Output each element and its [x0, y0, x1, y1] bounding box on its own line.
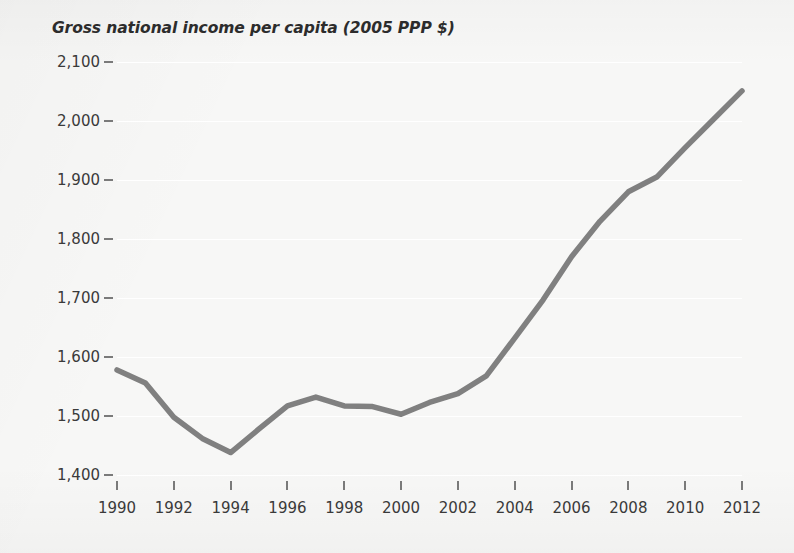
x-axis-label-2008: 2008 — [609, 499, 647, 517]
x-axis-tick-2000 — [400, 481, 402, 490]
y-axis-tick-2000 — [104, 120, 113, 122]
x-axis-label-1992: 1992 — [155, 499, 193, 517]
plot-area — [117, 62, 742, 475]
y-axis-tick-1900 — [104, 179, 113, 181]
y-axis-tick-1800 — [104, 238, 113, 240]
x-axis-label-1998: 1998 — [325, 499, 363, 517]
x-axis-label-2006: 2006 — [552, 499, 590, 517]
y-axis-label-1800: 1,800 — [57, 230, 100, 248]
y-axis-label-1500: 1,500 — [57, 407, 100, 425]
x-axis-tick-1994 — [230, 481, 232, 490]
data-line-path — [117, 91, 742, 453]
x-axis-tick-1998 — [343, 481, 345, 490]
y-axis-label-2100: 2,100 — [57, 53, 100, 71]
x-axis-tick-2010 — [684, 481, 686, 490]
y-axis-tick-2100 — [104, 61, 113, 63]
y-axis-label-1600: 1,600 — [57, 348, 100, 366]
x-axis-tick-2012 — [741, 481, 743, 490]
x-axis-label-2002: 2002 — [439, 499, 477, 517]
x-axis-tick-1990 — [116, 481, 118, 490]
x-axis-label-1994: 1994 — [212, 499, 250, 517]
y-axis-label-2000: 2,000 — [57, 112, 100, 130]
y-axis-label-1700: 1,700 — [57, 289, 100, 307]
x-axis-tick-1996 — [286, 481, 288, 490]
x-axis-tick-2006 — [571, 481, 573, 490]
y-axis-tick-1700 — [104, 297, 113, 299]
x-axis-label-1990: 1990 — [98, 499, 136, 517]
x-axis-tick-2008 — [627, 481, 629, 490]
line-series-gni-per-capita — [117, 62, 742, 475]
x-axis-tick-2002 — [457, 481, 459, 490]
chart-title: Gross national income per capita (2005 P… — [52, 19, 455, 37]
x-axis-tick-2004 — [514, 481, 516, 490]
x-axis-label-2012: 2012 — [723, 499, 761, 517]
y-axis-label-1900: 1,900 — [57, 171, 100, 189]
chart-figure: Gross national income per capita (2005 P… — [0, 0, 794, 553]
x-axis-label-1996: 1996 — [268, 499, 306, 517]
x-axis-label-2000: 2000 — [382, 499, 420, 517]
y-axis-tick-1400 — [104, 474, 113, 476]
y-axis-tick-1500 — [104, 415, 113, 417]
x-axis-line — [117, 475, 742, 476]
y-axis-label-1400: 1,400 — [57, 466, 100, 484]
y-axis-tick-1600 — [104, 356, 113, 358]
x-axis-label-2004: 2004 — [496, 499, 534, 517]
x-axis-tick-1992 — [173, 481, 175, 490]
x-axis-label-2010: 2010 — [666, 499, 704, 517]
